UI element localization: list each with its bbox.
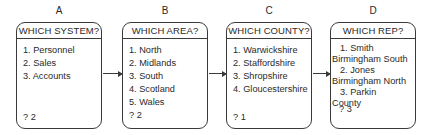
option-item: 3. South: [129, 70, 207, 83]
menu-box-county: WHICH COUNTY? 1. Warwickshire 2. Staffor…: [226, 22, 312, 129]
option-item: 1. North: [129, 44, 207, 57]
rep-area: Birmingham North: [331, 76, 415, 87]
option-item: 4. Gloucestershire: [233, 83, 311, 96]
option-item: 1. Personnel: [23, 44, 101, 57]
option-item: 2. Jones Birmingham North: [331, 65, 415, 87]
option-item: 4. Scotland: [129, 83, 207, 96]
box-title: WHICH AREA?: [123, 23, 207, 39]
option-item: 2. Midlands: [129, 57, 207, 70]
menu-box-area: WHICH AREA? 1. North 2. Midlands 3. Sout…: [122, 22, 208, 129]
menu-box-rep: WHICH REP? 1. Smith Birmingham South 2. …: [330, 22, 416, 129]
option-item: 3. Shropshire: [233, 70, 311, 83]
column-label-a: A: [16, 5, 102, 16]
box-title: WHICH REP?: [331, 23, 415, 39]
answer-prompt: ? 2: [23, 112, 36, 122]
rep-name: 2. Jones: [331, 65, 415, 76]
box-title: WHICH SYSTEM?: [17, 23, 101, 39]
option-item: 2. Sales: [23, 57, 101, 70]
option-list: 1. Warwickshire 2. Staffordshire 3. Shro…: [227, 39, 311, 96]
option-item: 1. Warwickshire: [233, 44, 311, 57]
column-label-b: B: [122, 5, 208, 16]
column-label-d: D: [330, 5, 416, 16]
answer-prompt: ? 2: [129, 109, 207, 122]
rep-area: Birmingham South: [331, 54, 415, 65]
option-item: 5. Wales: [129, 96, 207, 109]
column-label-c: C: [226, 5, 312, 16]
option-item: 1. Smith Birmingham South: [331, 43, 415, 65]
rep-name: 3. Parkin: [331, 87, 415, 98]
answer-prompt: ? 3: [339, 104, 352, 114]
box-title: WHICH COUNTY?: [227, 23, 311, 39]
option-list: 1. North 2. Midlands 3. South 4. Scotlan…: [123, 39, 207, 122]
option-list: 1. Personnel 2. Sales 3. Accounts: [17, 39, 101, 83]
rep-name: 1. Smith: [331, 43, 415, 54]
arrow-b-to-c: [209, 73, 226, 74]
option-item: 2. Staffordshire: [233, 57, 311, 70]
answer-prompt: ? 1: [233, 112, 246, 122]
option-list: 1. Smith Birmingham South 2. Jones Birmi…: [331, 39, 415, 109]
arrow-a-to-b: [103, 73, 122, 74]
option-item: 3. Accounts: [23, 70, 101, 83]
arrow-c-to-d: [313, 73, 330, 74]
menu-box-system: WHICH SYSTEM? 1. Personnel 2. Sales 3. A…: [16, 22, 102, 129]
